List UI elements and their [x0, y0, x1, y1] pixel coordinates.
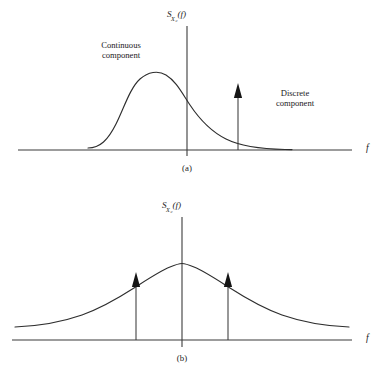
annotation-discrete-line1: Discrete [249, 88, 341, 98]
impulse-b-2 [224, 272, 232, 340]
y-axis-argument-b: (f) [172, 200, 181, 210]
panel-a: SXc(f) f Continuous component Discrete c… [0, 0, 391, 191]
caption-a: (a) [167, 163, 207, 173]
y-axis-argument-a: (f) [177, 9, 186, 19]
figure-root: SXc(f) f Continuous component Discrete c… [0, 0, 391, 382]
arrow-up-icon [234, 83, 242, 98]
annotation-continuous-component: Continuous component [78, 40, 164, 60]
annotation-discrete-component: Discrete component [249, 88, 341, 108]
y-axis-label-b: SXc(f) [162, 200, 181, 212]
impulse-a-1 [234, 83, 242, 150]
arrow-up-icon [132, 272, 140, 287]
x-axis-label-b: f [366, 332, 369, 343]
x-axis-label-a: f [366, 142, 369, 153]
continuous-curve-a [88, 72, 292, 149]
panel-b: SXc(f) f (b) [0, 191, 391, 382]
y-axis-label-a: SXc(f) [167, 9, 186, 21]
annotation-continuous-line2: component [78, 50, 164, 60]
caption-b: (b) [162, 353, 202, 363]
arrow-up-icon [224, 272, 232, 287]
impulse-b-1 [132, 272, 140, 340]
annotation-continuous-line1: Continuous [78, 40, 164, 50]
annotation-discrete-line2: component [249, 98, 341, 108]
